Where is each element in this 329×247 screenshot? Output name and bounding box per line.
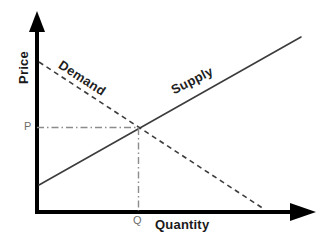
- supply-curve: [39, 37, 301, 185]
- x-axis-title: Quantity: [155, 217, 209, 232]
- chart-canvas: [0, 0, 329, 247]
- supply-demand-chart: Price Quantity P Q Demand Supply: [0, 0, 329, 247]
- x-axis-tick-label-q: Q: [133, 214, 142, 226]
- demand-curve: [39, 62, 264, 209]
- y-axis-arrowhead: [29, 11, 45, 32]
- y-axis-tick-label-p: P: [24, 120, 31, 132]
- x-axis-arrowhead: [290, 203, 316, 221]
- y-axis-title: Price: [16, 38, 31, 98]
